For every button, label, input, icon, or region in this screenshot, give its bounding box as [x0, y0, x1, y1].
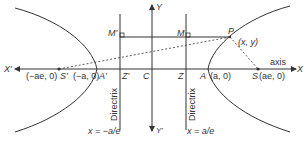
center-label: C	[143, 71, 150, 81]
hyperbola-left-branch	[15, 8, 97, 132]
focus-s-coord: (ae, 0)	[259, 71, 285, 81]
vertex-a-prime-coord: (−a, 0)	[73, 71, 99, 81]
axis-label: axis	[270, 57, 287, 67]
vertex-a-coord: (a, 0)	[210, 71, 231, 81]
directrix-right-label: Directrix	[187, 88, 197, 121]
focal-line-left	[59, 37, 230, 69]
point-p-dot	[229, 36, 231, 38]
focus-s-label: S	[252, 71, 258, 81]
z-label: Z	[177, 71, 184, 81]
y-neg-label: Y'	[156, 126, 163, 135]
focus-s-prime-label: S'	[60, 71, 68, 81]
x-neg-label: X'	[3, 64, 12, 74]
right-angle-marker-left	[120, 33, 124, 37]
vertex-a-label: A	[199, 71, 206, 81]
vertex-a-prime-label: A'	[98, 71, 107, 81]
hyperbola-diagram: X' X Y Y' axis C Z Z' A (a, 0) A' (−a, 0…	[0, 0, 304, 141]
focus-s-prime-coord: (−ae, 0)	[26, 71, 57, 81]
directrix-left-label: Directrix	[109, 88, 119, 121]
directrix-right-equation: x = a/e	[186, 126, 214, 136]
point-p-coord: (x, y)	[238, 37, 258, 47]
directrix-left-equation: x = −a/e	[87, 126, 121, 136]
y-pos-label: Y	[156, 2, 163, 12]
right-angle-marker-right	[186, 33, 190, 37]
z-prime-label: Z'	[121, 71, 129, 81]
m-label: M	[177, 28, 185, 38]
m-prime-label: M'	[108, 28, 117, 38]
x-pos-label: X	[296, 64, 304, 74]
point-p-label: P	[228, 26, 234, 36]
